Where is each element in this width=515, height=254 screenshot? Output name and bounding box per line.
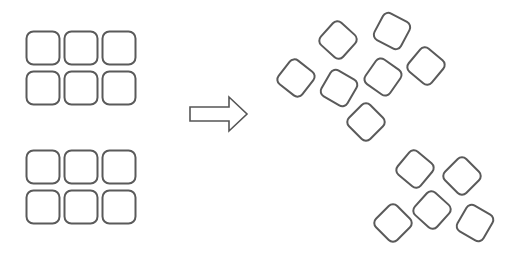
rounded-square-tile [65,72,98,105]
rounded-square-tile [103,191,136,224]
rounded-square-tile [65,32,98,65]
upper-cluster [275,11,447,143]
rotated-square-tile [345,101,387,143]
rounded-square-tile [27,72,60,105]
top-grid [27,32,136,105]
rotated-square-tile [411,189,453,231]
rounded-square-tile [27,32,60,65]
rotated-square-tile [275,57,317,99]
rotated-square-tile [405,45,447,87]
rotated-square-tile [319,68,360,109]
rotated-square-tile [394,148,436,190]
rounded-square-tile [27,151,60,184]
diagram-canvas [0,0,515,254]
scattered-tiles [275,11,496,244]
rounded-square-tile [65,151,98,184]
rounded-square-tile [103,72,136,105]
rotated-square-tile [317,19,359,61]
rounded-square-tile [65,191,98,224]
rounded-square-tile [103,32,136,65]
rounded-square-tile [27,191,60,224]
rotated-square-tile [441,155,483,197]
rotated-square-tile [372,11,413,52]
rounded-square-tile [103,151,136,184]
rotated-square-tile [362,56,404,98]
rotated-square-tile [455,203,496,244]
lower-cluster [372,148,496,244]
bottom-grid [27,151,136,224]
ordered-grids [27,32,136,224]
rotated-square-tile [372,202,414,244]
right-arrow-icon [190,97,247,131]
